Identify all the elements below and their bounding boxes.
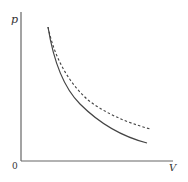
solid-curve [48, 27, 147, 143]
x-axis-label: V [169, 162, 178, 173]
dashed-curve [48, 27, 150, 129]
y-axis-label: p [11, 13, 18, 26]
pv-diagram: p 0 V [0, 0, 188, 182]
origin-label: 0 [12, 161, 18, 171]
